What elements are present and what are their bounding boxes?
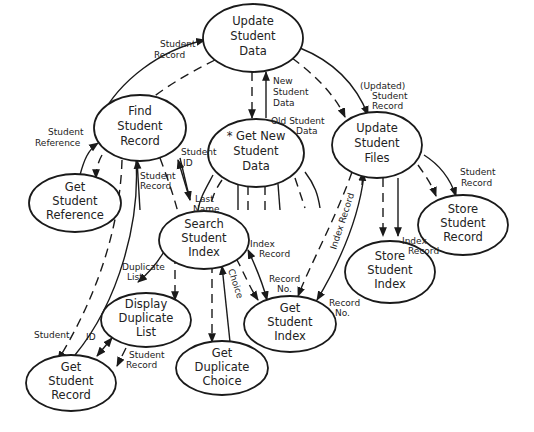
- node-update-student-data: Update Student Data: [203, 4, 303, 72]
- svg-text:Choice: Choice: [203, 374, 242, 388]
- svg-text:Record: Record: [408, 246, 439, 256]
- label-last-name: Last Name: [193, 194, 220, 214]
- svg-text:Index: Index: [402, 236, 427, 246]
- flow-display-to-getrec: [117, 348, 126, 366]
- svg-text:Store: Store: [375, 249, 405, 263]
- flow-display-getrec: [97, 338, 112, 356]
- svg-text:Student: Student: [160, 39, 196, 49]
- flow-files-to-storerec-solid: [424, 155, 456, 196]
- structure-chart-diagram: Update Student Data Find Student Record …: [0, 0, 534, 432]
- svg-text:* Get New: * Get New: [227, 129, 286, 143]
- svg-text:Store: Store: [448, 202, 478, 216]
- svg-text:Student: Student: [354, 136, 400, 150]
- svg-text:List: List: [127, 272, 143, 282]
- svg-text:Record: Record: [329, 298, 360, 308]
- svg-text:Record: Record: [443, 230, 483, 244]
- svg-text:Duplicate: Duplicate: [195, 360, 250, 374]
- flow-ref-to-find: [80, 143, 98, 175]
- label-id: ID: [86, 332, 96, 342]
- label-student-record-mid: Student Record: [140, 171, 176, 191]
- svg-text:Record: Record: [372, 101, 403, 111]
- label-student-record-top: Student Record: [154, 39, 196, 60]
- label-student: Student: [34, 330, 70, 340]
- svg-text:Student: Student: [460, 167, 496, 177]
- svg-text:Record: Record: [51, 388, 91, 402]
- svg-text:No.: No.: [277, 284, 292, 294]
- svg-text:Record: Record: [269, 274, 300, 284]
- svg-text:Data: Data: [296, 126, 318, 136]
- node-update-student-files: Update Student Files: [332, 112, 422, 178]
- node-get-student-index: Get Student Index: [244, 296, 336, 352]
- svg-text:List: List: [136, 325, 157, 339]
- svg-text:Index: Index: [188, 245, 220, 259]
- svg-text:New: New: [273, 76, 293, 86]
- svg-text:Choice: Choice: [226, 268, 245, 301]
- svg-text:Student: Student: [233, 144, 279, 158]
- svg-text:Index: Index: [274, 329, 306, 343]
- node-find-student-record: Find Student Record: [94, 95, 186, 161]
- svg-text:Reference: Reference: [46, 208, 104, 222]
- svg-text:Student: Student: [117, 119, 163, 133]
- fan-6: [278, 184, 280, 210]
- svg-text:Data: Data: [239, 44, 266, 58]
- svg-text:Find: Find: [128, 104, 152, 118]
- svg-text:Get: Get: [280, 301, 301, 315]
- svg-text:Reference: Reference: [35, 138, 81, 148]
- node-get-new-student-data: * Get New Student Data: [208, 119, 304, 187]
- svg-text:Old Student: Old Student: [271, 116, 325, 126]
- svg-text:Student: Student: [181, 147, 217, 157]
- svg-text:No.: No.: [335, 308, 350, 318]
- fan-8: [305, 172, 320, 208]
- svg-text:(Updated): (Updated): [360, 81, 405, 91]
- svg-text:Student: Student: [52, 194, 98, 208]
- svg-text:Update: Update: [356, 121, 398, 135]
- node-search-student-index: Search Student Index: [159, 211, 249, 269]
- svg-text:Get: Get: [212, 346, 233, 360]
- label-record-no-1: Record No.: [269, 274, 300, 294]
- svg-text:Student: Student: [372, 91, 408, 101]
- svg-text:Student: Student: [367, 263, 413, 277]
- svg-text:Get: Get: [65, 180, 86, 194]
- flow-files-to-getindex: [298, 172, 352, 296]
- svg-text:Record: Record: [126, 360, 157, 370]
- label-choice: Choice: [226, 268, 245, 301]
- label-new-student-data: New Student Data: [273, 76, 309, 108]
- svg-text:Record: Record: [259, 249, 290, 259]
- svg-text:Data: Data: [273, 98, 295, 108]
- svg-text:Student: Student: [181, 231, 227, 245]
- svg-text:Name: Name: [193, 204, 220, 214]
- svg-text:Last: Last: [195, 194, 214, 204]
- svg-text:Index: Index: [250, 239, 275, 249]
- flow-files-to-storerec: [418, 165, 436, 196]
- svg-text:Get: Get: [61, 360, 82, 374]
- flow-find-to-ref: [96, 155, 102, 178]
- svg-text:Display: Display: [125, 297, 168, 311]
- svg-text:Record: Record: [120, 134, 160, 148]
- svg-text:Student: Student: [129, 350, 165, 360]
- svg-text:Index: Index: [374, 277, 406, 291]
- node-display-duplicate-list: Display Duplicate List: [101, 293, 191, 347]
- svg-text:ID: ID: [183, 158, 193, 168]
- node-get-duplicate-choice: Get Duplicate Choice: [176, 341, 268, 395]
- svg-text:Duplicate: Duplicate: [122, 262, 165, 272]
- label-student-record-bottom: Student Record: [126, 350, 165, 370]
- svg-text:Duplicate: Duplicate: [119, 311, 174, 325]
- svg-text:Record: Record: [154, 50, 185, 60]
- svg-text:Files: Files: [364, 151, 389, 165]
- svg-text:Student: Student: [48, 127, 84, 137]
- svg-text:Student: Student: [440, 216, 486, 230]
- svg-text:Record: Record: [140, 181, 171, 191]
- node-get-student-record: Get Student Record: [26, 355, 116, 411]
- svg-text:Record: Record: [461, 178, 492, 188]
- svg-text:Search: Search: [184, 217, 224, 231]
- flow-update-to-files: [300, 48, 368, 115]
- svg-text:Student: Student: [267, 315, 313, 329]
- label-student-reference: Student Reference: [35, 127, 84, 148]
- svg-text:Student: Student: [273, 87, 309, 97]
- svg-text:ID: ID: [86, 332, 96, 342]
- svg-text:Student: Student: [230, 29, 276, 43]
- svg-text:Student: Student: [140, 171, 176, 181]
- label-duplicate-list: Duplicate List: [122, 262, 165, 282]
- fan-7: [295, 178, 305, 208]
- svg-text:Student: Student: [48, 374, 94, 388]
